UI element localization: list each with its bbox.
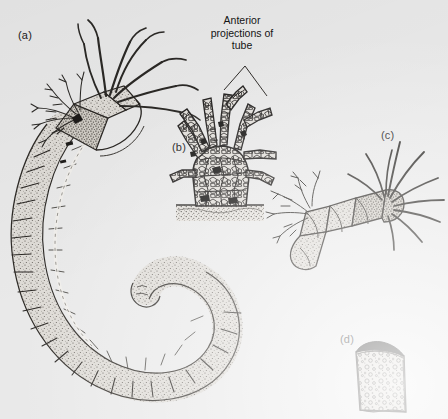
panel-d-tube-wall-section <box>356 342 406 412</box>
panel-c-anterior-end <box>266 142 444 269</box>
figure-canvas: Anterior projections of tube (a) (b) (c)… <box>0 0 448 419</box>
illustration-artwork <box>0 0 448 419</box>
annotation-line-2: projections of <box>196 27 288 40</box>
panel-b-tube-projections <box>170 86 276 221</box>
annotation-line-1: Anterior <box>196 14 288 27</box>
panel-c-tube-segments <box>290 190 386 269</box>
panel-label-c: (c) <box>381 130 394 141</box>
panel-label-b: (b) <box>172 142 186 153</box>
annotation-anterior-projections: Anterior projections of tube <box>196 14 288 52</box>
panel-label-a: (a) <box>18 30 32 41</box>
panel-b-sediment <box>176 205 264 221</box>
panel-label-d: (d) <box>340 334 354 345</box>
annotation-line-3: tube <box>196 39 288 52</box>
